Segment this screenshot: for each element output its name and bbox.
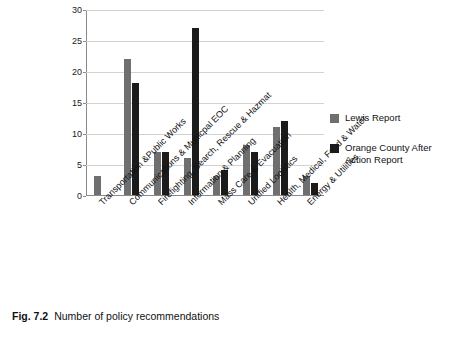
y-axis-tick <box>83 103 86 104</box>
bar <box>132 83 139 195</box>
figure-caption-label: Fig. 7.2 <box>12 310 48 322</box>
y-axis-tick <box>83 196 86 197</box>
legend-swatch-icon <box>330 144 339 153</box>
figure-caption: Fig. 7.2Number of policy recommendations <box>12 310 219 322</box>
x-axis-category-labels: Transportation &Public WorksCommunicatio… <box>86 198 336 298</box>
chart-legend: Lewis Report Orange County After Action … <box>330 112 460 184</box>
legend-item-label: Lewis Report <box>345 112 400 124</box>
y-axis-tick <box>83 165 86 166</box>
y-axis-tick <box>83 10 86 11</box>
y-axis-tick-label: 0 <box>77 191 82 201</box>
y-axis-tick-label: 10 <box>72 129 82 139</box>
y-axis-tick <box>83 72 86 73</box>
legend-item-orange-county-after-action-report: Orange County After Action Report <box>330 142 460 166</box>
bar <box>94 176 101 195</box>
y-axis-tick-label: 20 <box>72 67 82 77</box>
y-axis-tick-label: 30 <box>72 5 82 15</box>
legend-item-lewis-report: Lewis Report <box>330 112 460 124</box>
bar-group <box>87 10 117 195</box>
y-axis-tick-label: 15 <box>72 98 82 108</box>
legend-item-label: Orange County After Action Report <box>345 142 460 166</box>
y-axis-tick <box>83 41 86 42</box>
figure-caption-text: Number of policy recommendations <box>54 310 219 322</box>
y-axis-tick <box>83 134 86 135</box>
y-axis-tick-label: 25 <box>72 36 82 46</box>
legend-swatch-icon <box>330 114 339 123</box>
figure-container: 051015202530 Transportation &Public Work… <box>0 0 467 338</box>
y-axis-tick-label: 5 <box>77 160 82 170</box>
